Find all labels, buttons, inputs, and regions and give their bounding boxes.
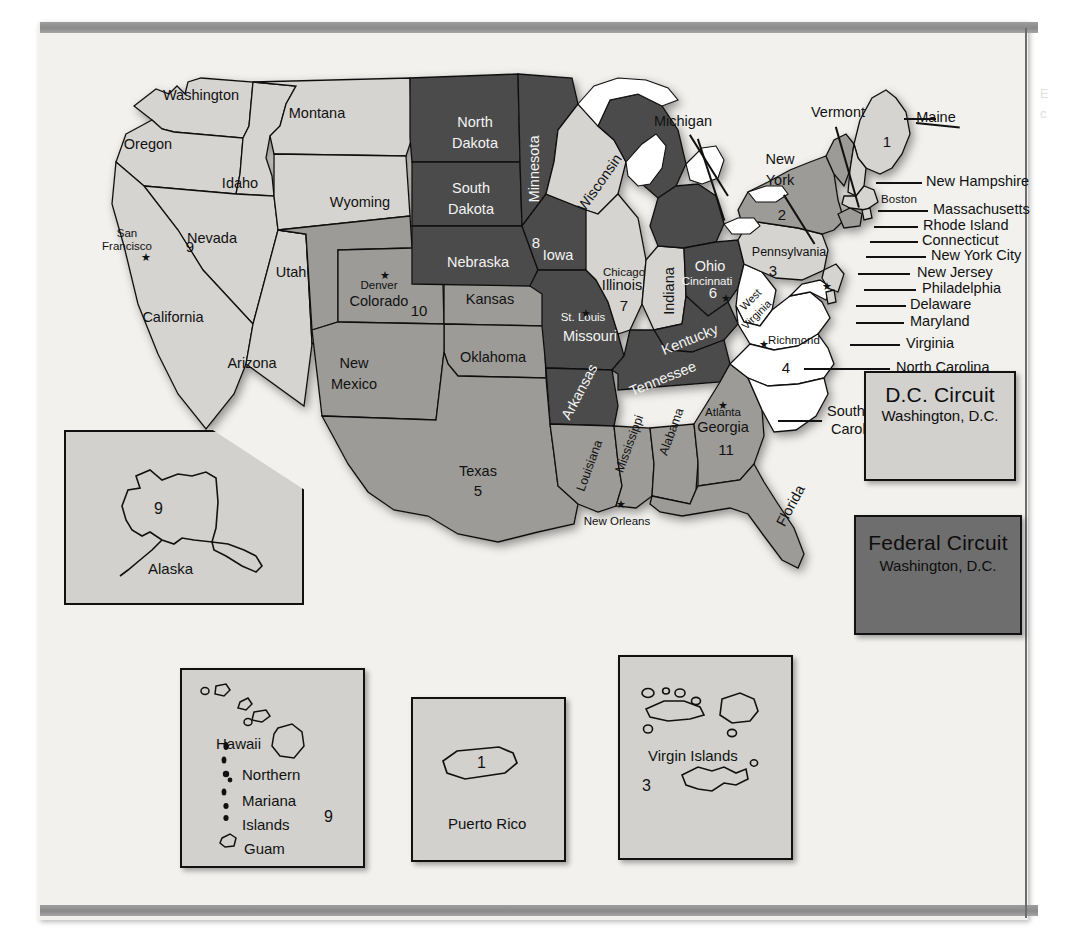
city-star-0: ★: [141, 252, 151, 263]
callout-label-delaware: Delaware: [910, 297, 971, 312]
alaska-aleutian-tail: [212, 542, 262, 572]
city-label-cincinnati: Cincinnati: [682, 275, 733, 287]
virgin-islands-label: Virgin Islands: [648, 747, 738, 764]
state-label-minnesota: Minnesota: [527, 136, 542, 203]
city-label-new-orleans: New Orleans: [584, 515, 650, 527]
inset-puerto-rico: 1 Puerto Rico: [411, 697, 566, 862]
callout-label-new-york-city: New York City: [931, 248, 1021, 263]
state-label-kansas: Kansas: [466, 292, 514, 307]
callout-label-new-hampshire: New Hampshire: [926, 174, 1029, 189]
city-star-2: ★: [581, 308, 591, 319]
state-label-georgia: Georgia: [697, 420, 749, 435]
state-label-idaho: Idaho: [222, 176, 258, 191]
state-label-vermont: Vermont: [811, 105, 865, 120]
mariana-label: Mariana: [242, 792, 296, 809]
state-label-utah: Utah: [276, 265, 307, 280]
alaska-outline: [122, 470, 218, 544]
pr-circuit-number: 1: [477, 754, 486, 772]
state-label-indiana: Indiana: [662, 267, 677, 315]
callout-label-virginia: Virginia: [906, 336, 954, 351]
city-star-5: ★: [718, 400, 728, 411]
dc-circuit-subtitle: Washington, D.C.: [866, 407, 1014, 424]
state-label-dakota: Dakota: [448, 202, 494, 217]
state-label-montana: Montana: [289, 106, 345, 121]
state-label-iowa: Iowa: [543, 248, 574, 263]
ghost-text-line-2: c: [1040, 105, 1047, 122]
city-star-7: ★: [822, 281, 832, 292]
circuit-number-5: 5: [474, 483, 482, 499]
state-delaware: [826, 290, 836, 304]
callout-label-maryland: Maryland: [910, 314, 970, 329]
city-star-6: ★: [616, 499, 626, 510]
inset-virgin-islands: Virgin Islands 3: [618, 655, 793, 860]
guam-island: [220, 834, 236, 847]
inset-pacific-islands: Hawaii Northern Mariana Islands Guam 9: [180, 668, 365, 868]
callout-leader-1: [876, 182, 922, 184]
state-label-york: York: [766, 173, 794, 188]
callout-leader-8: [856, 305, 906, 307]
ghost-text-line-1: E: [1040, 85, 1049, 102]
city-label-boston: Boston: [881, 193, 917, 205]
alaska-label: Alaska: [148, 560, 193, 577]
callout-leader-4: [870, 241, 918, 243]
city-star-3: ★: [721, 293, 731, 304]
northern-label: Northern: [242, 766, 300, 783]
state-label-new: New: [765, 152, 794, 167]
state-label-washington: Washington: [163, 88, 239, 103]
circuit-number-11: 11: [718, 442, 734, 458]
callout-leader-12: [778, 420, 822, 422]
state-label-colorado: Colorado: [350, 294, 409, 309]
hawaii-label: Hawaii: [216, 735, 261, 752]
callout-leader-10: [850, 344, 900, 346]
callout-label-new-jersey: New Jersey: [917, 265, 993, 280]
state-maine: [854, 90, 910, 174]
state-label-illinois: Illinois: [602, 278, 642, 293]
state-label-michigan: Michigan: [654, 114, 712, 129]
callout-leader-6: [858, 273, 910, 275]
callout-leader-7: [864, 289, 916, 291]
federal-circuit-box: Federal Circuit Washington, D.C.: [854, 515, 1022, 635]
callout-leader-5: [866, 256, 926, 258]
state-label-pennsylvania: Pennsylvania: [752, 246, 826, 259]
circuit-number-2: 2: [778, 207, 786, 223]
circuit-number-8: 8: [532, 235, 540, 251]
state-label-dakota: Dakota: [452, 136, 498, 151]
federal-circuit-subtitle: Washington, D.C.: [856, 557, 1020, 574]
callout-leader-3: [874, 226, 918, 228]
federal-circuit-title: Federal Circuit: [856, 531, 1020, 555]
header-rule: [40, 22, 1038, 33]
state-label-ohio: Ohio: [695, 259, 726, 274]
city-label-san: San: [117, 227, 137, 239]
guam-label: Guam: [244, 840, 285, 857]
state-rhode-island: [862, 208, 872, 220]
circuit-number-6: 6: [709, 285, 717, 301]
islands-label: Islands: [242, 816, 290, 833]
pacific-circuit-number: 9: [324, 808, 333, 826]
vi-circuit-number: 3: [642, 777, 651, 795]
state-label-nevada: Nevada: [187, 231, 237, 246]
state-label-missouri: Missouri: [563, 329, 617, 344]
callout-label-philadelphia: Philadelphia: [922, 281, 1001, 296]
footer-rule: [40, 905, 1038, 916]
city-label-chicago: Chicago: [603, 266, 645, 278]
circuit-number-10: 10: [411, 303, 428, 319]
city-label-denver: Denver: [360, 279, 397, 291]
callout-leader-11: [804, 368, 890, 370]
callout-label-massachusetts: Massachusetts: [933, 202, 1030, 217]
circuit-number-4: 4: [782, 360, 790, 376]
state-label-oregon: Oregon: [124, 137, 172, 152]
circuit-number-9: 9: [186, 239, 194, 255]
state-label-wyoming: Wyoming: [330, 195, 390, 210]
state-label-new: New: [339, 356, 368, 371]
state-label-arizona: Arizona: [227, 356, 276, 371]
state-label-north: North: [457, 115, 492, 130]
city-label-richmond: Richmond: [768, 334, 820, 346]
state-label-california: California: [142, 310, 203, 325]
callout-leader-9: [856, 322, 904, 324]
alaska-circuit-number: 9: [154, 500, 163, 518]
state-label-south: South: [452, 181, 490, 196]
virgin-islands-shapes: [642, 688, 758, 791]
puerto-rico-label: Puerto Rico: [448, 815, 526, 832]
state-label-texas: Texas: [459, 464, 497, 479]
circuit-number-7: 7: [620, 298, 628, 314]
